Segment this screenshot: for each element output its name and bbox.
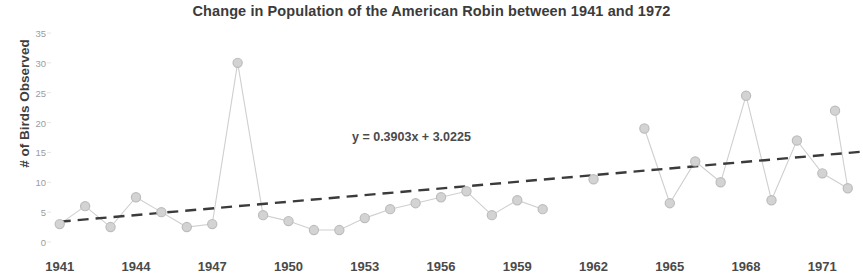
data-point-marker[interactable] [792, 136, 801, 145]
data-point-marker[interactable] [843, 184, 852, 193]
data-point-marker[interactable] [182, 222, 191, 231]
data-point-marker[interactable] [106, 222, 115, 231]
data-point-marker[interactable] [335, 225, 344, 234]
data-point-marker[interactable] [284, 217, 293, 226]
data-point-marker[interactable] [716, 178, 725, 187]
data-point-marker[interactable] [208, 219, 217, 228]
data-series-line [60, 63, 543, 230]
data-point-marker[interactable] [665, 199, 674, 208]
trendline-equation-annotation: y = 0.3903x + 3.0225 [352, 130, 471, 144]
x-tick-label: 1971 [808, 259, 837, 274]
x-tick-label: 1941 [45, 259, 74, 274]
data-point-marker[interactable] [81, 202, 90, 211]
data-point-marker[interactable] [691, 157, 700, 166]
x-tick-label: 1959 [503, 259, 532, 274]
data-point-marker[interactable] [830, 106, 839, 115]
data-point-marker[interactable] [131, 193, 140, 202]
data-point-marker[interactable] [513, 196, 522, 205]
x-tick-label: 1962 [579, 259, 608, 274]
data-series-line [644, 96, 847, 203]
x-tick-label: 1968 [732, 259, 761, 274]
data-point-marker[interactable] [462, 187, 471, 196]
data-point-marker[interactable] [157, 208, 166, 217]
trendline [60, 152, 861, 222]
data-point-marker[interactable] [767, 196, 776, 205]
data-point-marker[interactable] [386, 205, 395, 214]
x-tick-label: 1956 [427, 259, 456, 274]
data-point-marker[interactable] [589, 175, 598, 184]
x-tick-label: 1947 [198, 259, 227, 274]
x-tick-label: 1965 [655, 259, 684, 274]
data-point-marker[interactable] [411, 199, 420, 208]
data-point-marker[interactable] [309, 225, 318, 234]
data-point-marker[interactable] [538, 205, 547, 214]
data-point-marker[interactable] [233, 58, 242, 67]
data-point-marker[interactable] [55, 219, 64, 228]
x-tick-label: 1953 [350, 259, 379, 274]
data-point-marker[interactable] [741, 91, 750, 100]
data-point-marker[interactable] [640, 124, 649, 133]
data-point-marker[interactable] [818, 169, 827, 178]
data-series-line-tail [835, 111, 848, 189]
data-point-marker[interactable] [258, 211, 267, 220]
data-point-marker[interactable] [436, 193, 445, 202]
x-tick-label: 1944 [122, 259, 151, 274]
x-tick-label: 1950 [274, 259, 303, 274]
data-point-marker[interactable] [487, 211, 496, 220]
chart-container: Change in Population of the American Rob… [0, 0, 863, 276]
data-point-marker[interactable] [360, 214, 369, 223]
